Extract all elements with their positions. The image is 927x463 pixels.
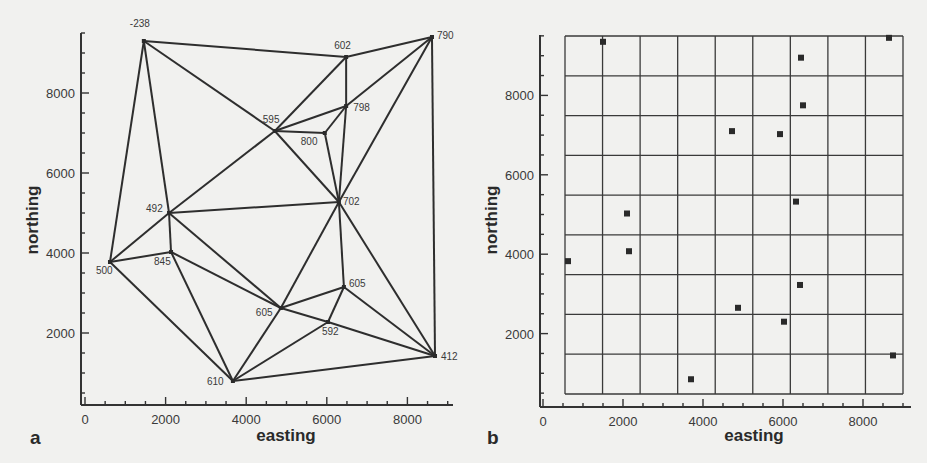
x-tick-label: 4000 (232, 412, 261, 427)
network-edge (110, 41, 144, 262)
node-value-label: 605 (349, 278, 366, 289)
network-node-marker (108, 260, 112, 264)
network-node-marker (169, 250, 173, 254)
data-point-marker (781, 319, 787, 325)
data-point-marker (565, 258, 571, 264)
data-point-marker (886, 35, 892, 41)
data-point-marker (777, 131, 783, 137)
network-edge (432, 37, 435, 356)
node-value-label: 610 (207, 376, 224, 387)
y-tick-label: 2000 (46, 326, 75, 341)
network-edge (144, 41, 346, 57)
network-edge (328, 322, 435, 356)
x-tick-label: 0 (81, 412, 88, 427)
network-edge (275, 131, 325, 133)
network-node-marker (273, 129, 277, 133)
node-value-label: 492 (146, 203, 163, 214)
grid (565, 36, 903, 394)
x-tick-label: 8000 (393, 412, 422, 427)
network-node-marker (430, 35, 434, 39)
panel-letter: a (30, 427, 41, 448)
data-point-marker (793, 199, 799, 205)
panel-a-triangulation-chart: 020004000600080002000400060008000easting… (23, 18, 458, 448)
data-point-marker (729, 128, 735, 134)
data-point-marker (797, 282, 803, 288)
x-tick-label: 8000 (849, 414, 878, 429)
panel-b-grid-scatter-chart: 020004000600080002000400060008000easting… (482, 35, 911, 448)
network-edge (233, 322, 328, 381)
x-tick-label: 2000 (609, 414, 638, 429)
node-value-label: 798 (353, 102, 370, 113)
figure: 020004000600080002000400060008000easting… (0, 0, 927, 463)
node-value-label: -238 (130, 18, 150, 29)
y-tick-label: 6000 (46, 166, 75, 181)
data-point-marker (735, 305, 741, 311)
network-node-marker (323, 131, 327, 135)
network-node-marker (231, 379, 235, 383)
network-node-marker (279, 306, 283, 310)
node-value-label: 602 (334, 40, 351, 51)
y-axis-title: northing (23, 186, 42, 255)
y-tick-label: 4000 (46, 246, 75, 261)
data-point-marker (890, 352, 896, 358)
node-value-label: 412 (441, 351, 458, 362)
network-edge (171, 252, 233, 381)
data-point-marker (600, 39, 606, 45)
data-point-marker (800, 102, 806, 108)
network-edge (339, 37, 432, 202)
data-point-marker (624, 211, 630, 217)
network-edge (169, 213, 171, 252)
node-value-label: 595 (263, 114, 280, 125)
network-node-marker (342, 285, 346, 289)
y-tick-label: 2000 (505, 327, 534, 342)
network-edge (339, 106, 346, 202)
network-edge (339, 202, 344, 287)
network-edge (169, 202, 339, 213)
panel-letter: b (487, 427, 499, 448)
network-edge (325, 133, 339, 202)
network-edge (144, 41, 169, 213)
data-point-marker (626, 248, 632, 254)
data-point-marker (688, 376, 694, 382)
network-node-marker (326, 320, 330, 324)
x-tick-label: 0 (539, 414, 546, 429)
y-tick-label: 8000 (505, 88, 534, 103)
data-point-marker (798, 55, 804, 61)
x-tick-label: 4000 (689, 414, 718, 429)
x-tick-label: 2000 (151, 412, 180, 427)
network-edge (169, 131, 275, 213)
data-points (565, 35, 896, 382)
network-edge (344, 287, 435, 356)
network-node-marker (433, 354, 437, 358)
node-value-label: 605 (256, 307, 273, 318)
network-node-marker (167, 211, 171, 215)
network-node-marker (344, 104, 348, 108)
node-value-label: 500 (96, 265, 113, 276)
network-node-marker (344, 55, 348, 59)
node-value-label: 800 (301, 136, 318, 147)
network-node-marker (142, 39, 146, 43)
x-axis-title: easting (256, 426, 316, 445)
network-edge (281, 308, 328, 322)
network-edge (233, 308, 281, 381)
network-node-marker (337, 200, 341, 204)
y-tick-label: 8000 (46, 86, 75, 101)
network-edge (233, 356, 435, 381)
node-value-label: 845 (154, 256, 171, 267)
y-tick-label: 6000 (505, 168, 534, 183)
node-value-label: 592 (322, 326, 339, 337)
x-tick-label: 6000 (312, 412, 341, 427)
x-axis-title: easting (724, 426, 784, 445)
network-edge (144, 41, 275, 131)
y-axis-title: northing (482, 186, 501, 255)
node-value-label: 790 (437, 30, 454, 41)
node-value-label: 702 (343, 196, 360, 207)
network-edge (110, 262, 233, 381)
y-tick-label: 4000 (505, 247, 534, 262)
